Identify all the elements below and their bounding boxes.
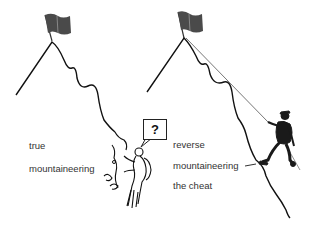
label-reverse: reverse [173, 140, 205, 150]
left-flag-icon [45, 14, 71, 41]
right-flag-icon [178, 11, 203, 38]
label-pointer-line [245, 164, 256, 166]
label-the-cheat: the cheat [173, 181, 212, 191]
right-mountain [147, 11, 300, 218]
rope [186, 38, 268, 122]
diagram-canvas: true mountaineering ? reverse mountainee… [0, 0, 313, 231]
rappelling-climber-icon [259, 111, 296, 167]
label-mountaineering-left: mountaineering [29, 164, 95, 174]
mountains-illustration [0, 0, 313, 231]
confused-climber-icon [124, 148, 151, 208]
right-mountain-ridge [147, 38, 290, 218]
label-mountaineering-right: mountaineering [173, 161, 239, 171]
label-true: true [29, 141, 45, 151]
left-mountain-ridge [16, 42, 115, 132]
speech-bubble-question: ? [143, 119, 167, 140]
